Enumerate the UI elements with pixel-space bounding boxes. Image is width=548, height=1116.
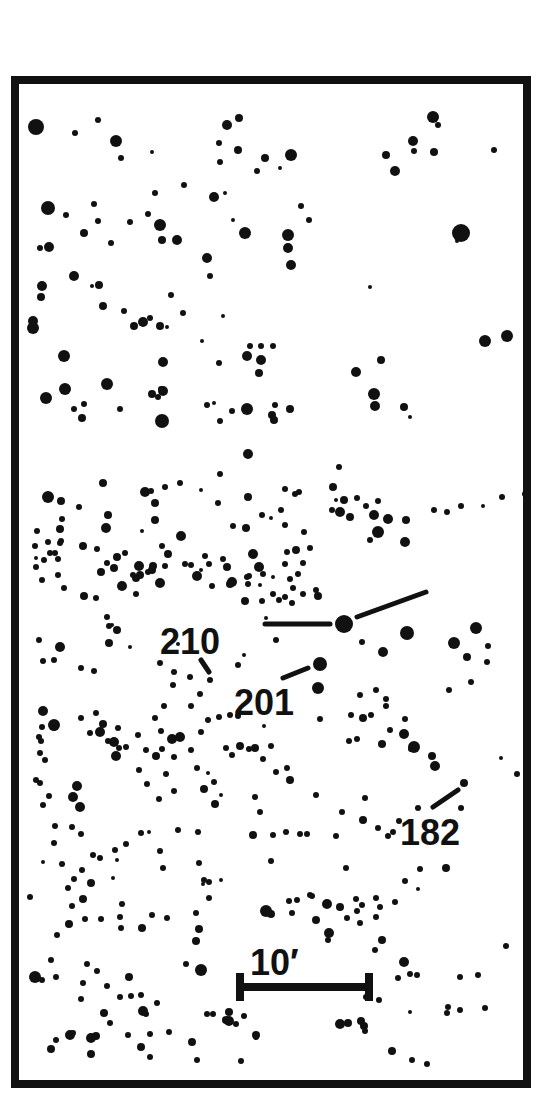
star-dot bbox=[44, 242, 54, 252]
star-dot bbox=[40, 802, 46, 808]
star-dot bbox=[378, 740, 386, 748]
star-dot bbox=[272, 402, 278, 408]
star-dot bbox=[135, 732, 141, 738]
star-dot bbox=[372, 526, 384, 538]
star-dot bbox=[130, 322, 138, 330]
star-dot bbox=[175, 827, 181, 833]
star-dot bbox=[246, 746, 252, 752]
star-dot bbox=[163, 771, 169, 777]
star-dot bbox=[359, 714, 367, 722]
star-dot bbox=[216, 714, 222, 720]
star-dot bbox=[204, 1011, 210, 1017]
marker-label: 201 bbox=[234, 682, 294, 723]
star-dot bbox=[373, 895, 379, 901]
star-dot bbox=[336, 464, 342, 470]
star-dot bbox=[283, 243, 293, 253]
star-dot bbox=[481, 504, 485, 508]
star-dot bbox=[209, 192, 219, 202]
star-dot bbox=[417, 866, 423, 872]
star-dot bbox=[40, 392, 52, 404]
star-dot bbox=[368, 712, 374, 718]
star-dot bbox=[363, 503, 369, 509]
scale-bar-label: 10′ bbox=[250, 942, 299, 983]
star-dot bbox=[127, 219, 133, 225]
star-dot bbox=[470, 622, 482, 634]
star-dot bbox=[259, 598, 265, 604]
star-dot bbox=[223, 191, 227, 195]
star-dot bbox=[194, 1057, 200, 1063]
star-dot bbox=[400, 403, 408, 411]
star-dot bbox=[430, 761, 440, 771]
star-dot bbox=[158, 386, 168, 396]
star-dot bbox=[313, 587, 319, 593]
star-dot bbox=[368, 285, 372, 289]
star-dot bbox=[278, 166, 282, 170]
star-dot bbox=[183, 961, 189, 967]
star-dot bbox=[296, 489, 302, 495]
star-dot bbox=[99, 479, 107, 487]
star-dot bbox=[80, 592, 88, 600]
star-dot bbox=[33, 564, 39, 570]
star-dot bbox=[254, 562, 264, 572]
star-dot bbox=[375, 498, 381, 504]
star-dot bbox=[104, 560, 110, 566]
star-dot bbox=[200, 339, 204, 343]
star-dot bbox=[99, 302, 107, 310]
star-dot bbox=[108, 240, 114, 246]
star-dot bbox=[201, 882, 205, 886]
star-dot bbox=[289, 910, 295, 916]
star-dot bbox=[41, 201, 55, 215]
star-dot bbox=[138, 830, 144, 836]
star-dot bbox=[444, 1010, 450, 1016]
star-dot bbox=[111, 876, 115, 880]
marked-star bbox=[335, 615, 353, 633]
star-dot bbox=[314, 592, 322, 600]
star-dot bbox=[254, 168, 260, 174]
star-dot bbox=[458, 805, 464, 811]
star-dot bbox=[286, 260, 296, 270]
star-dot bbox=[282, 486, 288, 492]
star-dot bbox=[48, 957, 54, 963]
star-dot bbox=[215, 500, 221, 506]
star-dot bbox=[47, 1045, 55, 1053]
star-dot bbox=[56, 525, 64, 533]
star-dot bbox=[373, 687, 379, 693]
star-dot bbox=[216, 140, 222, 146]
star-dot bbox=[51, 657, 57, 663]
star-dot bbox=[41, 557, 47, 563]
star-dot bbox=[164, 915, 170, 921]
star-dot bbox=[273, 637, 279, 643]
star-dot bbox=[150, 150, 154, 154]
star-dot bbox=[91, 668, 97, 674]
star-dot bbox=[195, 829, 201, 835]
star-dot bbox=[335, 1019, 345, 1029]
star-dot bbox=[444, 509, 450, 515]
star-dot bbox=[42, 757, 48, 763]
star-dot bbox=[295, 571, 301, 577]
star-dot bbox=[382, 151, 390, 159]
star-dot bbox=[270, 416, 278, 424]
star-dot bbox=[122, 550, 128, 556]
star-dot bbox=[95, 727, 105, 737]
star-dot bbox=[171, 754, 177, 760]
star-dot bbox=[354, 736, 360, 742]
star-dot bbox=[37, 293, 45, 301]
star-dot bbox=[217, 159, 223, 165]
star-dot bbox=[68, 792, 78, 802]
star-dot bbox=[370, 401, 380, 411]
star-dot bbox=[334, 498, 338, 502]
star-dot bbox=[101, 523, 111, 533]
star-dot bbox=[197, 691, 203, 697]
star-dot bbox=[408, 741, 420, 753]
star-dot bbox=[445, 1004, 451, 1010]
star-dot bbox=[333, 833, 339, 839]
star-dot bbox=[202, 253, 212, 263]
star-dot bbox=[282, 229, 294, 241]
star-dot bbox=[79, 895, 87, 903]
star-dot bbox=[212, 401, 216, 405]
star-dot bbox=[39, 724, 45, 730]
star-dot bbox=[329, 507, 335, 513]
star-dot bbox=[119, 901, 125, 907]
star-dot bbox=[188, 562, 194, 568]
star-dot bbox=[248, 549, 258, 559]
